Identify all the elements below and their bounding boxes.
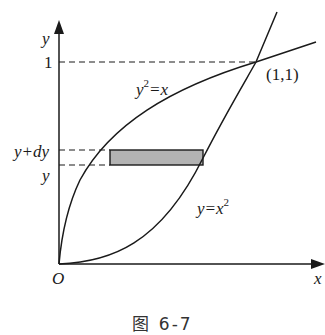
y-axis-label: y xyxy=(42,30,50,47)
curve-label-lhs: y xyxy=(136,80,144,99)
curve-label-exp: 2 xyxy=(224,196,230,208)
figure-caption: 图 6-7 xyxy=(0,310,325,335)
curve-label-rhs: =x xyxy=(149,80,168,99)
y-plus-dy-text: y+dy xyxy=(14,142,49,161)
y-plus-dy-label: y+dy xyxy=(14,143,49,160)
point-label-one-one: (1,1) xyxy=(266,66,299,83)
y-label: y xyxy=(42,167,50,184)
curve-label-y-squared-equals-x: y2=x xyxy=(136,78,168,98)
origin-label: O xyxy=(52,270,64,287)
x-axis-arrow-icon xyxy=(311,259,325,269)
shaded-strip xyxy=(110,150,203,165)
y-axis-arrow-icon xyxy=(54,20,64,34)
curve-y-equals-x-squared xyxy=(59,12,277,264)
curve-label-y-equals-x-squared: y=x2 xyxy=(197,197,229,217)
y-tick-one-label: 1 xyxy=(44,54,53,71)
x-axis-label: x xyxy=(314,270,322,287)
curve-label-lhs: y=x xyxy=(197,199,224,218)
